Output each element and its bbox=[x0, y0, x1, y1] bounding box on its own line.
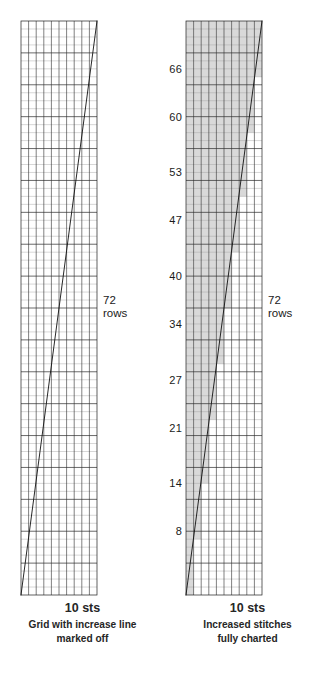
caption-description-line2: marked off bbox=[10, 632, 155, 646]
shaded-column bbox=[194, 21, 202, 539]
caption-left: 10 sts Grid with increase line marked of… bbox=[0, 601, 165, 645]
row-tick-label: 60 bbox=[169, 111, 182, 122]
grid-svg-left bbox=[21, 21, 97, 595]
chart-plain-grid bbox=[21, 21, 97, 595]
row-tick-label: 27 bbox=[169, 374, 182, 385]
rows-annotation-unit: rows bbox=[103, 307, 127, 320]
caption-stitch-count: 10 sts bbox=[0, 601, 165, 616]
shaded-column bbox=[216, 21, 224, 364]
row-tick-label: 66 bbox=[169, 63, 182, 74]
shaded-column bbox=[232, 21, 240, 252]
rows-annotation-right: 72 rows bbox=[268, 294, 292, 320]
rows-annotation-left: 72 rows bbox=[103, 294, 127, 320]
caption-stitch-count: 10 sts bbox=[165, 601, 330, 616]
panel-grid-with-increase-line: 72 rows 10 sts Grid with increase line m… bbox=[0, 0, 165, 680]
caption-description-line2: fully charted bbox=[175, 632, 320, 646]
row-tick-label: 21 bbox=[169, 422, 182, 433]
rows-annotation-unit: rows bbox=[268, 307, 292, 320]
caption-right: 10 sts Increased stitches fully charted bbox=[165, 601, 330, 645]
caption-description-line1: Grid with increase line bbox=[10, 618, 155, 632]
row-tick-label: 40 bbox=[169, 271, 182, 282]
row-tick-label: 47 bbox=[169, 215, 182, 226]
caption-description-line1: Increased stitches bbox=[175, 618, 320, 632]
row-tick-label: 34 bbox=[169, 318, 182, 329]
grid-svg-right bbox=[186, 21, 262, 595]
panel-increased-stitches-charted: 8142127344047536066 72 rows 10 sts Incre… bbox=[165, 0, 330, 680]
row-tick-label: 14 bbox=[169, 478, 182, 489]
rows-annotation-number: 72 bbox=[268, 294, 292, 307]
rows-annotation-number: 72 bbox=[103, 294, 127, 307]
knitting-increase-figure: 72 rows 10 sts Grid with increase line m… bbox=[0, 0, 330, 680]
chart-shaded-grid bbox=[186, 21, 262, 595]
row-tick-label: 53 bbox=[169, 167, 182, 178]
row-tick-label: 8 bbox=[176, 526, 182, 537]
